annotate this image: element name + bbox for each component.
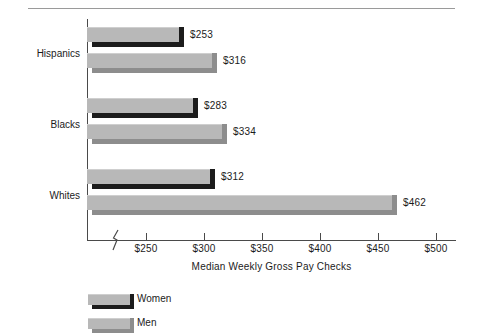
x-tick-250	[146, 233, 147, 241]
bar-shadow-right	[179, 27, 184, 42]
x-tick-label-350: $350	[250, 243, 273, 254]
legend-swatch-shadow-bottom	[92, 329, 134, 333]
bar-shadow-right	[193, 98, 198, 113]
x-tick-300	[204, 233, 205, 241]
bar-shadow-bottom	[92, 42, 184, 47]
bar-whites-women	[87, 169, 210, 184]
axis-break-icon	[104, 228, 128, 252]
x-tick-label-450: $450	[366, 243, 389, 254]
x-tick-350	[262, 233, 263, 241]
legend-swatch-women	[88, 294, 130, 305]
bar-value-blacks-men: $334	[233, 126, 256, 137]
bar-shadow-bottom	[92, 210, 397, 215]
bar-value-whites-women: $312	[221, 171, 244, 182]
x-tick-400	[320, 233, 321, 241]
legend-swatch-shadow-right	[130, 294, 134, 305]
bar-value-hispanics-women: $253	[190, 29, 213, 40]
x-axis-line	[87, 240, 456, 241]
bar-hispanics-men	[87, 53, 212, 68]
bar-value-blacks-women: $283	[204, 100, 227, 111]
bar-whites-men	[87, 195, 392, 210]
chart-page: Hispanics Blacks Whites $253 $316 $283	[0, 0, 483, 333]
bar-value-whites-men: $462	[403, 197, 426, 208]
bar-value-hispanics-men: $316	[223, 55, 246, 66]
bar-shadow-right	[222, 124, 227, 139]
bar-shadow-bottom	[92, 139, 227, 144]
bar-shadow-bottom	[92, 113, 198, 118]
bar-shadow-bottom	[92, 184, 215, 189]
legend-swatch-shadow-right	[130, 318, 134, 329]
x-axis-title: Median Weekly Gross Pay Checks	[87, 261, 456, 272]
legend-swatch-shadow-bottom	[92, 305, 134, 309]
category-label-hispanics: Hispanics	[6, 43, 80, 61]
bar-blacks-men	[87, 124, 222, 139]
bar-shadow-bottom	[92, 68, 217, 73]
category-label-blacks: Blacks	[6, 114, 80, 132]
legend-swatch-men	[88, 318, 130, 329]
category-label-whites: Whites	[6, 185, 80, 203]
bar-hispanics-women	[87, 27, 179, 42]
legend-label-men: Men	[137, 317, 156, 328]
x-tick-450	[378, 233, 379, 241]
legend-label-women: Women	[137, 293, 171, 304]
bar-blacks-women	[87, 98, 193, 113]
bar-shadow-right	[210, 169, 215, 184]
x-tick-label-300: $300	[192, 243, 215, 254]
top-divider-rule	[28, 8, 455, 9]
x-tick-label-250: $250	[134, 243, 157, 254]
bar-shadow-right	[212, 53, 217, 68]
x-tick-500	[436, 233, 437, 241]
bar-shadow-right	[392, 195, 397, 210]
x-tick-label-400: $400	[308, 243, 331, 254]
x-tick-label-500: $500	[424, 243, 447, 254]
